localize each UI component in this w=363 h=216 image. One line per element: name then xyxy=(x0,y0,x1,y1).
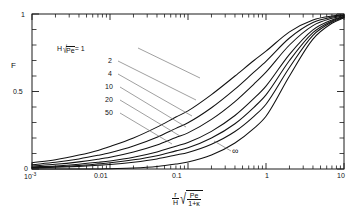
x-tick-label-0.01: 0.01 xyxy=(94,172,108,179)
x-tick-mantissa: 10 xyxy=(24,173,32,180)
y-axis-label: F xyxy=(11,62,16,70)
x-tick-label-1e-3: 10-3 xyxy=(24,172,36,180)
legend-header-prefix: H xyxy=(57,45,62,52)
legend-leader-line-5 xyxy=(120,113,172,144)
x-tick-label-0.1: 0.1 xyxy=(172,172,182,179)
curve-series-3 xyxy=(32,16,344,167)
curve-group xyxy=(32,15,344,169)
legend-entry-2: 2 xyxy=(108,57,112,64)
x-axis-label: rH√Pe1+κ xyxy=(172,190,203,208)
legend-header-equals: = 1 xyxy=(75,45,85,52)
x-label-radicand-denominator: 1+κ xyxy=(187,200,200,207)
curve-series-5 xyxy=(32,17,344,168)
legend-entry-10: 10 xyxy=(105,83,113,90)
x-label-radical: √Pe1+κ xyxy=(179,190,203,208)
legend-leader-line-0 xyxy=(138,48,200,78)
plot-canvas xyxy=(0,0,363,216)
curve-series-0 xyxy=(32,15,344,163)
y-tick-label-0: 0 xyxy=(24,165,28,172)
legend-entry-20: 20 xyxy=(105,96,113,103)
x-label-numerator-r: r xyxy=(172,191,179,199)
legend-leader-line-2 xyxy=(118,74,192,116)
radical-sign-icon: √ xyxy=(63,44,67,55)
x-label-radicand-numerator: Pe xyxy=(187,192,200,200)
legend-entry-50: 50 xyxy=(105,109,113,116)
curve-series-6 xyxy=(32,18,344,169)
x-tick-exponent: -3 xyxy=(32,171,36,177)
y-tick-label-1: 1 xyxy=(21,11,25,18)
legend-entry-4: 4 xyxy=(108,70,112,77)
curve-series-4 xyxy=(32,17,344,168)
x-label-radicand-fraction: Pe1+κ xyxy=(187,192,200,208)
x-label-fraction-r-over-H: rH xyxy=(172,191,179,207)
x-label-radicand: Pe1+κ xyxy=(186,190,202,208)
curve-series-2 xyxy=(32,16,344,166)
legend-header-radicand: Pe xyxy=(66,46,75,54)
legend-header: H√Pe= 1 xyxy=(57,44,85,55)
legend-leader-lines xyxy=(118,48,231,151)
x-tick-label-1: 1 xyxy=(265,172,269,179)
legend-entry-infinity: ∞ xyxy=(232,147,238,156)
radical-sign-icon: √ xyxy=(180,191,186,206)
x-label-denominator-H: H xyxy=(172,199,179,206)
figure-container: F 1 0.5 0 10-3 0.01 0.1 1 10 H√Pe= 1 2 4… xyxy=(0,0,363,216)
x-tick-label-10: 10 xyxy=(337,172,345,179)
y-tick-label-0.5: 0.5 xyxy=(13,88,23,95)
